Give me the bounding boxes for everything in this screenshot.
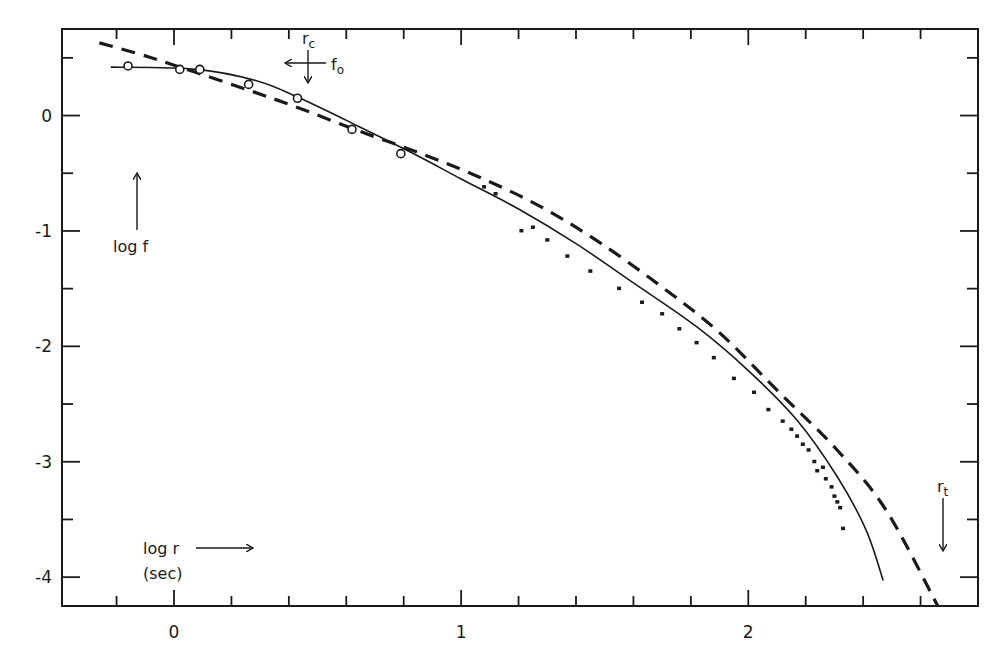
dot-point: [494, 192, 498, 196]
dot-point: [807, 448, 811, 452]
x-axis-annotation: log r (sec): [143, 539, 252, 583]
core-radius-marker: rc fo: [286, 29, 344, 82]
dot-point: [832, 494, 836, 498]
dot-point: [482, 185, 486, 189]
dot-point: [617, 287, 621, 291]
y-axis-annotation: log f: [113, 174, 148, 256]
axis-tick-labels: 0120-1-2-3-4: [35, 106, 754, 642]
chart-canvas: 0120-1-2-3-4 log f log r (sec) rc fo rt: [0, 0, 996, 653]
dot-point: [781, 419, 785, 423]
x-axis-unit: (sec): [143, 564, 182, 583]
open-circle-point: [397, 150, 405, 158]
dot-point: [838, 506, 842, 510]
data-series: [99, 43, 937, 606]
y-tick-label: -4: [35, 567, 52, 587]
tidal-radius-marker: rt: [937, 477, 949, 550]
dot-point: [565, 254, 569, 258]
y-tick-label: -3: [35, 452, 52, 472]
y-tick-label: -2: [35, 336, 52, 356]
plot-frame: [62, 29, 978, 606]
x-tick-label: 1: [456, 622, 467, 642]
dot-point: [821, 466, 825, 470]
dot-point: [766, 408, 770, 412]
x-tick-label: 0: [169, 622, 180, 642]
dot-point: [640, 300, 644, 304]
open-circle-point: [124, 62, 132, 70]
dot-point: [815, 469, 819, 473]
f0-label: fo: [331, 55, 344, 77]
dot-point: [752, 391, 756, 395]
dot-point: [588, 269, 592, 273]
solid-model-curve: [111, 67, 883, 581]
dot-point: [732, 377, 736, 381]
dot-point: [545, 238, 549, 242]
open-circle-point: [245, 80, 253, 88]
dot-point: [660, 312, 664, 316]
open-circle-point: [293, 94, 301, 102]
dot-point: [824, 477, 828, 481]
dashed-model-curve: [99, 43, 937, 606]
y-axis-label: log f: [113, 237, 148, 256]
open-circle-point: [176, 65, 184, 73]
dot-point: [835, 500, 839, 504]
dot-point: [531, 225, 535, 229]
dot-point: [677, 327, 681, 331]
dot-point: [519, 229, 523, 233]
rc-label: rc: [302, 29, 315, 51]
dot-point: [712, 356, 716, 360]
rt-label: rt: [937, 477, 949, 499]
y-tick-label: 0: [41, 106, 52, 126]
dot-point: [695, 341, 699, 345]
open-circle-point: [196, 65, 204, 73]
y-tick-label: -1: [35, 221, 52, 241]
axis-ticks: [62, 29, 978, 606]
dot-point: [789, 427, 793, 431]
dot-point: [795, 434, 799, 438]
dot-point: [830, 485, 834, 489]
open-circle-point: [348, 125, 356, 133]
x-axis-label: log r: [143, 539, 179, 558]
x-tick-label: 2: [743, 622, 754, 642]
dot-point: [801, 442, 805, 446]
dot-point: [841, 527, 845, 531]
dot-point: [812, 460, 816, 464]
